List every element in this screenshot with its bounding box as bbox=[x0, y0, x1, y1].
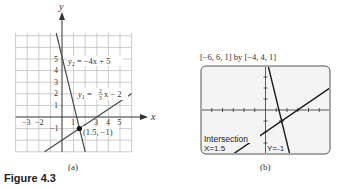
panel-a-graph: x y −3 −2 1 3 4 5 5 4 3 2 1 −1 y2 = − bbox=[16, 1, 156, 172]
point-label-text: (1.5, −1) bbox=[83, 127, 113, 137]
intersection-text: Intersection bbox=[204, 134, 248, 144]
x-tick-1: 1 bbox=[71, 118, 75, 127]
x-tick-neg2: −2 bbox=[35, 118, 44, 127]
line-y1-label: y1 = 2 3 x − 2 bbox=[76, 88, 128, 101]
y1-eq-post: x − 2 bbox=[104, 89, 122, 99]
y-readout: Y=-1 bbox=[267, 144, 285, 153]
y-axis-label: y bbox=[58, 1, 64, 12]
y-tick-3: 3 bbox=[54, 78, 58, 87]
x-tick-5: 5 bbox=[118, 118, 122, 127]
y1-frac-den: 3 bbox=[99, 95, 102, 101]
window-settings: [−6, 6, 1] by [−4, 4, 1] bbox=[200, 52, 276, 62]
y-tick-5: 5 bbox=[54, 55, 58, 64]
x-readout: X=1.5 bbox=[204, 144, 226, 153]
y-tick-neg1: −1 bbox=[50, 124, 59, 133]
panel-a-label: (a) bbox=[68, 162, 78, 172]
y1-frac-num: 2 bbox=[99, 88, 102, 94]
y2-eq: = −4x + 5 bbox=[75, 56, 111, 66]
x-axis-arrow-icon bbox=[140, 114, 148, 120]
x-tick-neg3: −3 bbox=[22, 118, 31, 127]
line-y2-label: y2 = −4x + 5 bbox=[67, 56, 123, 67]
panel-b-calculator: [−6, 6, 1] by [−4, 4, 1] bbox=[200, 52, 330, 172]
figure-canvas: x y −3 −2 1 3 4 5 5 4 3 2 1 −1 y2 = − bbox=[0, 0, 342, 189]
y-axis-arrow-icon bbox=[59, 12, 65, 20]
y-tick-4: 4 bbox=[54, 66, 58, 75]
x-axis-label: x bbox=[150, 111, 156, 122]
y-tick-2: 2 bbox=[54, 89, 58, 98]
panel-b-label: (b) bbox=[260, 162, 271, 172]
figure-caption: Figure 4.3 bbox=[4, 172, 56, 184]
intersection-point bbox=[77, 126, 82, 131]
point-label: (1.5, −1) bbox=[82, 127, 119, 137]
svg-text:y1 =: y1 = bbox=[77, 89, 92, 100]
y-tick-1: 1 bbox=[54, 101, 58, 110]
y1-eq-pre: = bbox=[85, 89, 92, 99]
